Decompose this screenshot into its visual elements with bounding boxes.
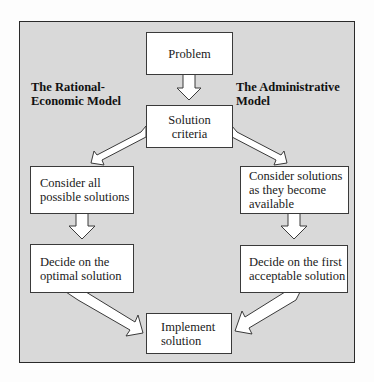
- rational-economic-model-title: The Rational- Economic Model: [31, 80, 121, 108]
- arrow-down-icon: [281, 213, 307, 239]
- arrow-down-right-icon: [66, 292, 143, 336]
- rational-decide-box: Decide on the optimal solution: [30, 244, 134, 293]
- arrow-down-left-icon: [91, 126, 146, 165]
- admin-consider-box: Consider solutions as they become availa…: [240, 166, 349, 214]
- arrow-down-left-icon: [235, 292, 300, 334]
- rational-consider-box: Consider all possible solutions: [30, 166, 134, 214]
- arrow-down-icon: [177, 74, 201, 100]
- problem-label: Problem: [168, 47, 210, 61]
- rational-consider-label: Consider all possible solutions: [31, 176, 129, 204]
- admin-decide-box: Decide on the first acceptable solution: [240, 245, 348, 293]
- admin-consider-label: Consider solutions as they become availa…: [241, 169, 342, 211]
- implement-box: Implement solution: [146, 313, 232, 354]
- administrative-model-title: The Administrative Model: [236, 80, 340, 108]
- implement-label: Implement solution: [147, 320, 215, 348]
- arrow-down-icon: [69, 213, 95, 239]
- arrow-down-right-icon: [232, 126, 287, 165]
- rational-decide-label: Decide on the optimal solution: [31, 255, 122, 283]
- solution-criteria-box: Solution criteria: [146, 105, 233, 148]
- solution-criteria-label: Solution criteria: [168, 113, 210, 141]
- admin-decide-label: Decide on the first acceptable solution: [241, 255, 345, 283]
- problem-box: Problem: [146, 32, 233, 75]
